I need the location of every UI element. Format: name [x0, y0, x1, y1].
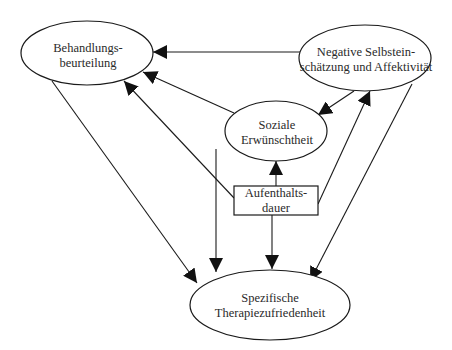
- label-line-1: Soziale: [241, 118, 313, 133]
- edge-behandlung-to-spezifische: [52, 81, 197, 283]
- label-line-2: beurteilung: [53, 56, 122, 71]
- label-line-1: Aufenthalts-: [245, 186, 307, 201]
- label-negative-selbsteinschaetzung: Negative Selbstein- schätzung und Affekt…: [300, 45, 432, 75]
- label-line-2: schätzung und Affektivität: [300, 60, 432, 75]
- label-soziale-erwuenschtheit: Soziale Erwünschtheit: [241, 118, 313, 148]
- label-aufenthaltsdauer: Aufenthalts- dauer: [245, 186, 307, 216]
- edge-aufenthalt-to-negative: [318, 91, 370, 204]
- label-spezifische-therapiezufriedenheit: Spezifische Therapiezufriedenheit: [215, 291, 325, 321]
- label-line-2: Erwünschtheit: [241, 133, 313, 148]
- label-line-1: Spezifische: [215, 291, 325, 306]
- edge-negative-to-soziale: [318, 91, 354, 115]
- label-line-2: Therapiezufriedenheit: [215, 306, 325, 321]
- label-behandlungsbeurteilung: Behandlungs- beurteilung: [53, 41, 122, 71]
- edge-soziale-to-behandlung: [143, 72, 234, 113]
- edge-aufenthalt-to-behandlung: [124, 81, 234, 198]
- label-line-1: Behandlungs-: [53, 41, 122, 56]
- label-line-1: Negative Selbstein-: [300, 45, 432, 60]
- label-line-2: dauer: [245, 201, 307, 216]
- edge-negative-to-spezifische: [310, 84, 412, 281]
